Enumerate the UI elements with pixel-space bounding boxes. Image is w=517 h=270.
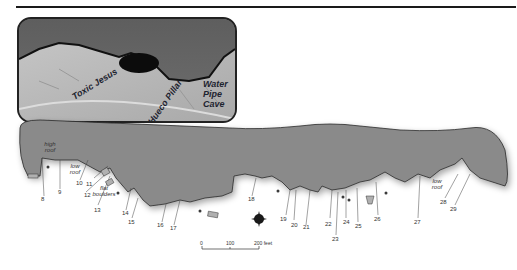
route-number: 23 xyxy=(332,236,339,242)
route-number: 21 xyxy=(303,224,310,230)
scale-label-0: 0 xyxy=(200,240,203,246)
note-flat-boulders: flat boulders xyxy=(90,185,118,197)
route-number: 15 xyxy=(128,219,135,225)
route-number: 17 xyxy=(170,225,177,231)
route-number: 29 xyxy=(450,206,457,212)
cave-map xyxy=(0,0,517,270)
route-number: 27 xyxy=(414,219,421,225)
route-number: 13 xyxy=(94,207,101,213)
route-number: 9 xyxy=(58,189,61,195)
route-number: 22 xyxy=(325,221,332,227)
route-number: 20 xyxy=(291,222,298,228)
route-number: 12 xyxy=(84,192,91,198)
note-low-roof-right: low roof xyxy=(430,178,444,190)
scale-label-200: 200 feet xyxy=(254,240,272,246)
route-number: 28 xyxy=(440,199,447,205)
route-number: 14 xyxy=(122,210,129,216)
note-high-roof: high roof xyxy=(42,141,58,153)
note-low-roof-left: low roof xyxy=(68,163,82,175)
route-number: 19 xyxy=(280,216,287,222)
route-number: 10 xyxy=(76,180,83,186)
route-number: 25 xyxy=(355,223,362,229)
route-number: 8 xyxy=(41,196,44,202)
scale-bar xyxy=(202,246,259,249)
route-number: 24 xyxy=(343,219,350,225)
route-number: 18 xyxy=(248,196,255,202)
compass-rose-icon xyxy=(251,211,267,227)
scale-label-100: 100 xyxy=(226,240,234,246)
route-number: 11 xyxy=(86,181,92,187)
route-number: 26 xyxy=(374,216,381,222)
route-number: 16 xyxy=(157,222,164,228)
